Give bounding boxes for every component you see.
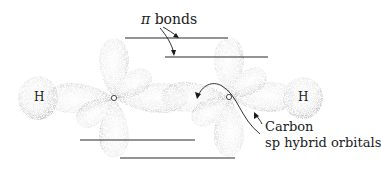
sp-hybrid-orbitals-label: sp hybrid orbitals: [265, 135, 381, 150]
hydrogen-right-label: H: [298, 90, 308, 104]
carbon-label: Carbon: [265, 119, 313, 134]
pi-symbol: π: [141, 11, 150, 27]
hydrogen-left-label: H: [34, 90, 44, 104]
pi-bonds-label: π bonds: [141, 11, 197, 27]
arrowhead-icon: [171, 50, 176, 56]
pi-bonds-arrows: [160, 27, 178, 54]
